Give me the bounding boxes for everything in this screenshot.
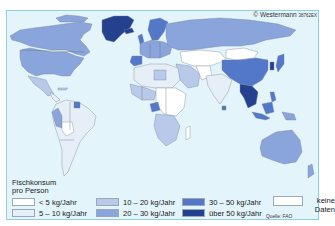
map-code: 38762EX <box>298 13 317 18</box>
source-note: Quelle: FAO <box>266 214 292 219</box>
legend-item-10-20: 10 – 20 kg/Jahr <box>96 197 175 207</box>
region-mexico <box>28 76 54 96</box>
legend-swatch <box>182 209 205 217</box>
legend-swatch <box>96 198 119 206</box>
region-southern-africa <box>154 114 180 146</box>
legend-title: Fischkonsum pro Person <box>12 179 56 195</box>
legend-title-line2: pro Person <box>12 187 56 195</box>
region-gabon-congo <box>150 102 160 112</box>
legend-item-lt5: < 5 kg/Jahr <box>12 197 77 207</box>
region-southeast-asia <box>240 84 258 108</box>
region-japan <box>276 54 284 72</box>
region-scandinavia <box>148 18 168 40</box>
legend-label: über 50 kg/Jahr <box>209 209 262 218</box>
region-russia <box>166 18 296 50</box>
region-new-zealand <box>308 164 314 178</box>
region-libya <box>154 70 166 80</box>
region-arctic-islands <box>56 15 88 22</box>
region-guyana <box>74 102 80 108</box>
region-australia <box>260 130 302 164</box>
legend-swatch <box>96 209 119 217</box>
region-madagascar <box>186 126 190 140</box>
region-borneo <box>262 102 274 114</box>
legend-item-5-10: 5 – 10 kg/Jahr <box>12 208 87 218</box>
region-india <box>206 74 232 104</box>
nodata-line2: Daten <box>309 205 335 214</box>
legend-label: 5 – 10 kg/Jahr <box>39 209 87 218</box>
legend-nodata-label: keine Daten <box>309 196 335 214</box>
region-middle-east <box>176 64 200 88</box>
copyright-text: © Westermann <box>253 11 296 18</box>
copyright-notice: © Westermann 38762EX <box>253 11 317 18</box>
legend-swatch <box>182 198 205 206</box>
region-papua <box>282 112 296 120</box>
region-korea <box>270 62 274 70</box>
legend-swatch <box>273 196 303 206</box>
region-iberia <box>130 56 142 66</box>
region-central-america <box>50 92 60 102</box>
legend-label: 10 – 20 kg/Jahr <box>123 198 175 207</box>
legend-item-nodata: keine Daten <box>273 196 335 214</box>
nodata-line1: keine <box>309 196 335 205</box>
legend-label: 20 – 30 kg/Jahr <box>123 209 175 218</box>
legend-item-30-50: 30 – 50 kg/Jahr <box>182 197 261 207</box>
region-cuba <box>58 88 68 90</box>
legend-item-20-30: 20 – 30 kg/Jahr <box>96 208 175 218</box>
legend-label: 30 – 50 kg/Jahr <box>209 198 261 207</box>
region-uk <box>138 34 144 44</box>
region-central-africa <box>156 88 186 116</box>
region-central-asia <box>180 50 226 66</box>
legend-swatch <box>12 198 35 206</box>
legend-item-gt50: über 50 kg/Jahr <box>182 208 262 218</box>
legend-swatch <box>12 209 35 217</box>
legend-label: < 5 kg/Jahr <box>39 198 77 207</box>
region-sri-lanka <box>222 106 226 110</box>
region-philippines <box>270 92 276 102</box>
